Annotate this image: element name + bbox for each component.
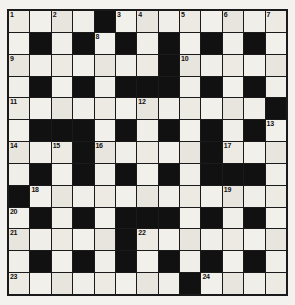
open-square[interactable] [95,251,115,272]
open-square[interactable] [266,229,286,250]
open-square[interactable] [137,164,157,185]
open-square[interactable] [52,77,72,98]
open-square[interactable] [52,208,72,229]
open-square[interactable] [9,33,29,54]
open-square[interactable] [137,273,157,294]
open-square[interactable] [223,273,243,294]
open-square[interactable] [52,186,72,207]
open-square[interactable] [159,273,179,294]
open-square[interactable]: 20 [9,208,29,229]
open-square[interactable] [73,98,93,119]
open-square[interactable] [95,120,115,141]
open-square[interactable] [244,186,264,207]
open-square[interactable] [116,55,136,76]
open-square[interactable] [266,208,286,229]
open-square[interactable] [201,98,221,119]
open-square[interactable]: 7 [266,11,286,32]
open-square[interactable] [116,186,136,207]
open-square[interactable] [30,55,50,76]
open-square[interactable]: 17 [223,142,243,163]
open-square[interactable] [95,98,115,119]
open-square[interactable] [180,120,200,141]
open-square[interactable] [116,273,136,294]
crossword-grid[interactable]: 123456789101112131415161718192021222324 [7,9,288,296]
open-square[interactable] [30,142,50,163]
open-square[interactable] [180,98,200,119]
open-square[interactable] [266,251,286,272]
open-square[interactable] [30,11,50,32]
open-square[interactable] [73,11,93,32]
open-square[interactable]: 21 [9,229,29,250]
open-square[interactable]: 11 [9,98,29,119]
open-square[interactable] [244,55,264,76]
open-square[interactable]: 6 [223,11,243,32]
open-square[interactable] [223,229,243,250]
open-square[interactable] [73,186,93,207]
open-square[interactable] [52,98,72,119]
open-square[interactable] [30,229,50,250]
open-square[interactable]: 23 [9,273,29,294]
open-square[interactable]: 5 [180,11,200,32]
open-square[interactable] [137,55,157,76]
open-square[interactable]: 8 [95,33,115,54]
open-square[interactable] [223,77,243,98]
open-square[interactable] [223,98,243,119]
open-square[interactable] [244,229,264,250]
open-square[interactable] [9,77,29,98]
open-square[interactable] [180,186,200,207]
open-square[interactable] [266,77,286,98]
open-square[interactable] [9,251,29,272]
open-square[interactable] [159,186,179,207]
open-square[interactable]: 1 [9,11,29,32]
open-square[interactable] [180,142,200,163]
open-square[interactable] [52,164,72,185]
open-square[interactable] [223,55,243,76]
open-square[interactable] [73,55,93,76]
open-square[interactable] [244,98,264,119]
open-square[interactable] [73,229,93,250]
open-square[interactable] [201,186,221,207]
open-square[interactable] [180,77,200,98]
open-square[interactable] [266,142,286,163]
open-square[interactable] [159,11,179,32]
open-square[interactable] [223,208,243,229]
open-square[interactable]: 2 [52,11,72,32]
open-square[interactable] [95,273,115,294]
open-square[interactable] [223,33,243,54]
open-square[interactable] [52,33,72,54]
open-square[interactable] [30,273,50,294]
open-square[interactable] [52,251,72,272]
open-square[interactable] [244,142,264,163]
open-square[interactable] [266,164,286,185]
open-square[interactable]: 12 [137,98,157,119]
open-square[interactable] [30,98,50,119]
open-square[interactable] [159,98,179,119]
open-square[interactable] [52,55,72,76]
open-square[interactable]: 10 [180,55,200,76]
open-square[interactable] [95,208,115,229]
open-square[interactable] [223,120,243,141]
open-square[interactable] [116,98,136,119]
open-square[interactable] [137,251,157,272]
open-square[interactable] [95,186,115,207]
open-square[interactable] [180,251,200,272]
open-square[interactable] [95,77,115,98]
open-square[interactable] [116,142,136,163]
open-square[interactable]: 9 [9,55,29,76]
open-square[interactable] [52,273,72,294]
open-square[interactable] [266,186,286,207]
open-square[interactable] [244,11,264,32]
open-square[interactable]: 22 [137,229,157,250]
open-square[interactable] [95,55,115,76]
open-square[interactable] [9,164,29,185]
open-square[interactable] [201,11,221,32]
open-square[interactable] [9,120,29,141]
open-square[interactable] [201,229,221,250]
open-square[interactable] [266,55,286,76]
open-square[interactable]: 3 [116,11,136,32]
open-square[interactable]: 13 [266,120,286,141]
open-square[interactable] [159,142,179,163]
open-square[interactable] [137,186,157,207]
open-square[interactable] [180,164,200,185]
open-square[interactable] [137,142,157,163]
